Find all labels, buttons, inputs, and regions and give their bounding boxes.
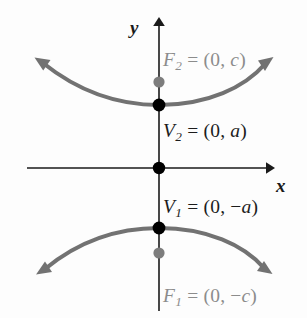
vertex-point-v1 [153,222,166,235]
focus-upper-name: F [163,49,175,70]
focus-upper-coord: c [230,49,239,70]
x-axis-arrowhead [266,162,275,174]
x-axis [27,162,275,174]
focus-lower-close: ) [250,285,257,306]
vertex-upper-name: V [163,120,175,141]
focus-upper-label: F2 = (0, c) [163,50,246,72]
hyperbola-figure: y x F2 = (0, c) V2 = (0, a) V1 = (0, −a)… [0,0,307,318]
vertex-lower-equals: = (0, − [182,196,241,217]
vertex-upper-coord: a [230,120,240,141]
y-axis-label: y [130,18,138,37]
vertex-lower-coord: a [241,196,251,217]
vertex-point-v2 [153,99,166,112]
x-axis-label: x [276,176,286,195]
vertex-lower-close: ) [251,196,258,217]
origin-point [153,162,165,174]
vertex-upper-close: ) [240,120,247,141]
focus-lower-name: F [163,285,175,306]
hyperbola-graph-canvas [0,0,307,318]
vertex-lower-name: V [163,196,175,217]
lower-branch-curve [45,228,264,269]
vertex-upper-equals: = (0, [182,120,230,141]
focus-upper-close: ) [239,49,246,70]
focus-point-f2 [153,76,164,87]
focus-lower-equals: = (0, − [182,285,241,306]
focus-point-f1 [153,247,164,258]
y-axis-arrowhead [153,17,165,26]
focus-lower-label: F1 = (0, −c) [163,286,257,308]
focus-lower-coord: c [241,285,250,306]
vertex-lower-label: V1 = (0, −a) [163,197,258,219]
vertex-upper-label: V2 = (0, a) [163,121,247,143]
focus-upper-equals: = (0, [182,49,230,70]
